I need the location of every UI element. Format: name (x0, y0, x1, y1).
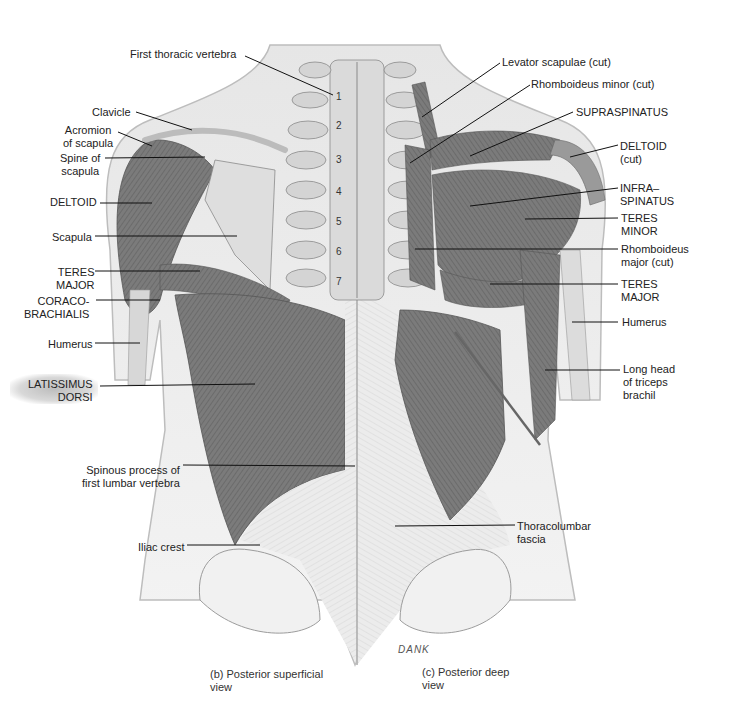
label-rhomboideus-minor: Rhomboideus minor (cut) (531, 78, 655, 91)
label-acromion: Acromion of scapula (63, 124, 113, 150)
label-teres-minor: TERES MINOR (621, 212, 658, 238)
label-spinous-process: Spinous process of first lumbar vertebra (82, 464, 180, 490)
label-latissimus-dorsi: LATISSIMUS DORSI (28, 378, 93, 404)
label-deltoid-cut: DELTOID (cut) (620, 140, 667, 166)
vertebra-number-6: 6 (336, 246, 342, 257)
rhomboideus-muscle (405, 145, 435, 290)
caption-posterior-deep: (c) Posterior deep view (422, 666, 509, 692)
label-scapula: Scapula (52, 231, 92, 244)
label-teres-major-right: TERES MAJOR (621, 278, 660, 304)
vertebra-number-4: 4 (336, 186, 342, 197)
caption-posterior-superficial: (b) Posterior superficial view (210, 668, 323, 694)
label-humerus-right: Humerus (622, 316, 667, 329)
label-supraspinatus: SUPRASPINATUS (576, 106, 668, 119)
label-iliac-crest: Iliac crest (138, 541, 184, 554)
vertebra-number-3: 3 (336, 154, 342, 165)
label-levator-scapulae: Levator scapulae (cut) (502, 56, 611, 69)
vertebra-number-7: 7 (336, 276, 342, 287)
label-thoracolumbar-fascia: Thoracolumbar fascia (517, 520, 591, 546)
label-clavicle: Clavicle (92, 106, 131, 119)
label-long-head-triceps: Long head of triceps brachil (623, 363, 675, 402)
vertebra-number-1: 1 (336, 91, 342, 102)
label-spine-of-scapula: Spine of scapula (60, 152, 100, 178)
label-first-thoracic-vertebra: First thoracic vertebra (130, 48, 236, 61)
vertebra-number-2: 2 (336, 120, 342, 131)
label-teres-major-left: TERES MAJOR (56, 266, 95, 292)
label-humerus-left: Humerus (48, 338, 93, 351)
vertebra-number-5: 5 (336, 216, 342, 227)
artist-signature: DANK (398, 644, 430, 655)
label-infraspinatus: INFRA– SPINATUS (620, 182, 674, 208)
label-coracobrachialis: CORACO- BRACHIALIS (24, 295, 89, 321)
label-deltoid-left: DELTOID (50, 196, 97, 209)
label-rhomboideus-major: Rhomboideus major (cut) (621, 243, 689, 269)
